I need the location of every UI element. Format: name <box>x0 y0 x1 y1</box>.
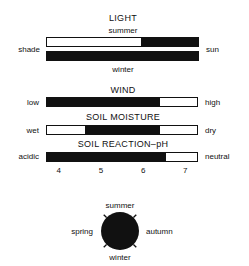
season-dial-disc <box>101 212 139 250</box>
season-divider-tick <box>104 215 107 218</box>
season-divider-tick <box>133 244 136 247</box>
season-divider-tick <box>104 244 107 247</box>
season-divider-tick <box>133 215 136 218</box>
season-dial <box>0 0 249 266</box>
